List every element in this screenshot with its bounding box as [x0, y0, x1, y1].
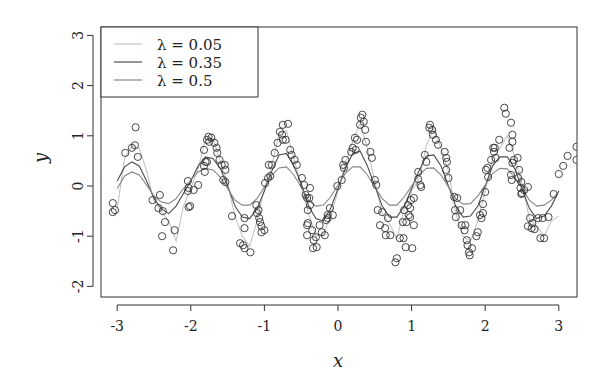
data-point: [387, 232, 394, 239]
data-point: [496, 136, 503, 143]
data-point: [309, 227, 316, 234]
data-point: [159, 233, 166, 240]
data-point: [560, 162, 567, 169]
data-point: [488, 156, 495, 163]
x-tick-label: -3: [110, 318, 124, 334]
chart: -2-10123 -3-2-10123 x y λ = 0.05 λ = 0.3…: [0, 0, 609, 389]
data-point: [409, 245, 416, 252]
x-axis: -3-2-10123: [110, 305, 563, 334]
data-point: [410, 222, 417, 229]
data-point: [109, 200, 116, 207]
x-tick-label: -2: [184, 318, 198, 334]
y-tick-label: 3: [70, 31, 86, 40]
legend-label-0: λ = 0.05: [157, 36, 222, 54]
series-line-2: [117, 167, 559, 206]
y-axis: -2-10123: [70, 31, 93, 293]
y-axis-label: y: [30, 152, 51, 164]
data-point: [287, 146, 294, 153]
data-point: [402, 244, 409, 251]
data-point: [473, 233, 480, 240]
data-point: [321, 232, 328, 239]
y-tick-label: 1: [70, 131, 86, 140]
data-point: [443, 158, 450, 165]
data-point: [354, 136, 361, 143]
data-point: [132, 124, 139, 131]
data-point: [374, 207, 381, 214]
y-tick-label: 2: [70, 81, 86, 90]
data-point: [555, 170, 562, 177]
y-tick-label: 0: [70, 182, 86, 191]
x-tick-label: 0: [334, 318, 343, 334]
data-point: [161, 219, 168, 226]
legend-label-2: λ = 0.5: [157, 72, 212, 90]
plot-area: [109, 104, 580, 266]
legend: λ = 0.05 λ = 0.35 λ = 0.5: [101, 27, 258, 97]
data-point: [316, 222, 323, 229]
data-point: [109, 209, 116, 216]
data-point: [392, 259, 399, 266]
data-point: [111, 207, 118, 214]
data-point: [256, 219, 263, 226]
data-point: [474, 229, 481, 236]
data-point: [564, 152, 571, 159]
legend-label-1: λ = 0.35: [157, 54, 222, 72]
x-tick-label: 1: [407, 318, 416, 334]
data-point: [284, 120, 291, 127]
data-point: [550, 190, 557, 197]
data-point: [508, 176, 515, 183]
data-point: [195, 181, 202, 188]
data-point: [443, 166, 450, 173]
y-tick-label: -2: [70, 280, 86, 294]
data-point: [362, 126, 369, 133]
data-point: [156, 191, 163, 198]
data-point: [279, 121, 286, 128]
y-tick-label: -1: [70, 229, 86, 243]
x-tick-label: 3: [554, 318, 563, 334]
data-point: [507, 119, 514, 126]
data-point: [241, 225, 248, 232]
x-tick-label: 2: [481, 318, 490, 334]
data-point: [247, 249, 254, 256]
data-point: [509, 131, 516, 138]
x-tick-label: -1: [258, 318, 272, 334]
data-point: [134, 153, 141, 160]
data-point: [405, 212, 412, 219]
data-point: [306, 184, 313, 191]
data-point: [170, 247, 177, 254]
data-point: [482, 166, 489, 173]
x-axis-label: x: [333, 350, 343, 371]
data-point: [393, 255, 400, 262]
